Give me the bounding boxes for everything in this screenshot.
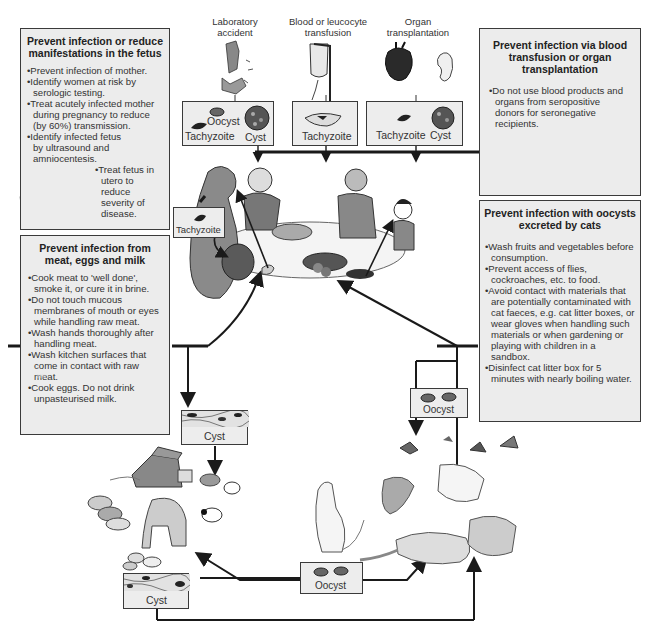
oocyst-icon xyxy=(301,563,364,579)
list-item: Cook eggs. Do not drink unpasteurised mi… xyxy=(27,382,163,404)
panel-title-line: transfusion or organ xyxy=(488,51,632,63)
stage-box-laboratory: Oocyst Tachyzoite Cyst xyxy=(182,101,274,146)
kidney-icon xyxy=(437,53,452,81)
milk-label: Milk xyxy=(37,373,46,379)
tissue-cyst-icon xyxy=(124,574,190,591)
list-item: Disinfect cat litter box for 5 minutes w… xyxy=(484,362,636,384)
list-item: Cook meat to 'well done', smoke it, or c… xyxy=(27,272,163,294)
panel-prevent-cats: Prevent infection with oocysts excreted … xyxy=(479,200,641,422)
stage-box-meat-cyst: Cyst xyxy=(181,410,248,445)
source-label-line: Laboratory xyxy=(196,16,274,27)
source-label-laboratory-accident: Laboratory accident xyxy=(196,16,274,38)
cyst-label: Cyst xyxy=(430,129,451,141)
tachyzoite-label: Tachyzoite xyxy=(176,224,221,235)
tissue-cyst-icon xyxy=(182,411,249,427)
source-label-blood-transfusion: Blood or leucocyte transfusion xyxy=(280,16,376,38)
panel-title: Prevent infection via blood transfusion … xyxy=(488,39,632,75)
list-item: Wash fruits and vegetables before consum… xyxy=(484,241,636,263)
oocyst-label: Oocyst xyxy=(423,404,454,415)
panel-list: Prevent infection of mother. Identify wo… xyxy=(26,65,164,219)
source-label-organ-transplantation: Organ transplantation xyxy=(378,16,458,38)
panel-list: Do not use blood products and organs fro… xyxy=(488,85,632,129)
source-label-line: transfusion xyxy=(280,27,376,38)
list-item: Do not use blood products and organs fro… xyxy=(488,85,632,129)
tachyzoite-label: Tachyzoite xyxy=(376,129,426,141)
source-label-line: transplantation xyxy=(378,27,458,38)
panel-prevent-transfusion: Prevent infection via blood transfusion … xyxy=(479,28,641,196)
panel-title: Prevent infection or reduce manifestatio… xyxy=(26,35,164,59)
oocyst-icon xyxy=(411,389,469,405)
broken-flask-icon xyxy=(222,41,253,94)
stage-box-oocyst-lower: Oocyst xyxy=(300,562,363,594)
list-item: Wash hands thoroughly after handling mea… xyxy=(27,327,163,349)
tachyzoite-label: Tachyzoite xyxy=(185,130,235,142)
panel-title-line: transplantation xyxy=(488,63,632,75)
source-label-line: Organ xyxy=(378,16,458,27)
panel-title: Prevent infection from meat, eggs and mi… xyxy=(27,242,163,266)
source-label-line: accident xyxy=(196,27,274,38)
list-item: Prevent access of flies, cockroaches, et… xyxy=(484,263,636,285)
source-label-line: Blood or leucocyte xyxy=(280,16,376,27)
panel-title-line: manifestations in the fetus xyxy=(26,47,164,59)
list-item: Avoid contact with materials that are po… xyxy=(484,285,636,362)
cats-illustration xyxy=(316,436,518,564)
list-item: Treat acutely infected mother during pre… xyxy=(26,98,164,131)
panel-title: Prevent infection with oocysts excreted … xyxy=(484,207,636,231)
cyst-label: Cyst xyxy=(146,594,167,606)
cyst-label: Cyst xyxy=(204,430,225,442)
stage-box-blood: Tachyzoite xyxy=(292,101,358,146)
panel-title-line: Prevent infection from xyxy=(27,242,163,254)
tachyzoite-label: Tachyzoite xyxy=(302,130,352,142)
iv-bag-icon xyxy=(310,44,330,102)
panel-prevent-meat: Prevent infection from meat, eggs and mi… xyxy=(20,235,170,435)
farm-animals-illustration xyxy=(88,447,240,570)
panel-title-line: Prevent infection via blood xyxy=(488,39,632,51)
panel-title-line: Prevent infection with oocysts xyxy=(484,207,636,219)
panel-prevent-fetus: Prevent infection or reduce manifestatio… xyxy=(20,28,170,230)
list-item: Wash kitchen surfaces that come in conta… xyxy=(27,349,163,382)
list-item: Prevent infection of mother. xyxy=(26,65,164,76)
heart-icon xyxy=(385,42,412,81)
stage-box-rodent-cyst: Cyst xyxy=(123,573,189,609)
panel-list: Cook meat to 'well done', smoke it, or c… xyxy=(27,272,163,404)
oocyst-label: Oocyst xyxy=(315,580,346,591)
stage-box-organ: Tachyzoite Cyst xyxy=(366,101,463,146)
list-item: Identify infected fetus by ultrasound an… xyxy=(26,131,164,164)
list-item-sub: Treat fetus in utero to reduce severity … xyxy=(94,164,164,219)
panel-list: Wash fruits and vegetables before consum… xyxy=(484,241,636,384)
cyst-label: Cyst xyxy=(245,131,266,143)
panel-title-line: Prevent infection or reduce xyxy=(26,35,164,47)
list-item: Identify women at risk by serologic test… xyxy=(26,76,164,98)
list-item: Do not touch mucous membranes of mouth o… xyxy=(27,294,163,327)
panel-title-line: meat, eggs and milk xyxy=(27,254,163,266)
panel-title-line: excreted by cats xyxy=(484,219,636,231)
oocyst-label: Oocyst xyxy=(207,115,240,127)
stage-box-oocyst-upper: Oocyst xyxy=(410,388,468,418)
stage-box-fetus: Tachyzoite xyxy=(173,207,225,238)
